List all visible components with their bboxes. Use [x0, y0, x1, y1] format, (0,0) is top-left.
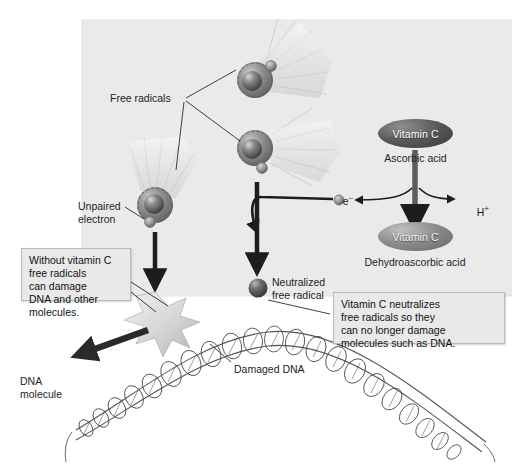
callout-without-vitamin-c: Without vitamin C free radicals can dama… — [21, 248, 131, 301]
vitamin-c-ascorbic-pill: Vitamin C — [378, 119, 453, 148]
label-unpaired-electron: Unpaired electron — [78, 200, 121, 225]
vitamin-c-dehydro-label: Vitamin C — [378, 222, 453, 251]
neutralized-leader — [268, 300, 330, 314]
proton-charge: + — [484, 204, 489, 213]
figure-canvas: Free radicals Unpaired electron Neutrali… — [0, 0, 512, 476]
label-neutralized-free-radical: Neutralized free radical — [272, 276, 325, 301]
electron-charge: – — [349, 193, 353, 202]
label-proton: H+ — [465, 190, 489, 230]
neutralized-free-radical-sphere — [249, 279, 268, 298]
vitamin-c-ascorbic-label: Vitamin C — [378, 119, 453, 148]
label-damaged-dna: Damaged DNA — [234, 363, 305, 376]
callout-vitamin-c-neutralizes: Vitamin C neutralizes free radicals so t… — [333, 292, 505, 344]
label-dna-molecule: DNA molecule — [20, 375, 62, 400]
label-electron: e– — [331, 179, 353, 219]
caption-dehydroascorbic-acid: Dehydroascorbic acid — [340, 256, 490, 268]
label-free-radicals: Free radicals — [110, 92, 171, 105]
caption-ascorbic-acid: Ascorbic acid — [378, 152, 453, 164]
vitamin-c-dehydro-pill: Vitamin C — [378, 222, 453, 251]
